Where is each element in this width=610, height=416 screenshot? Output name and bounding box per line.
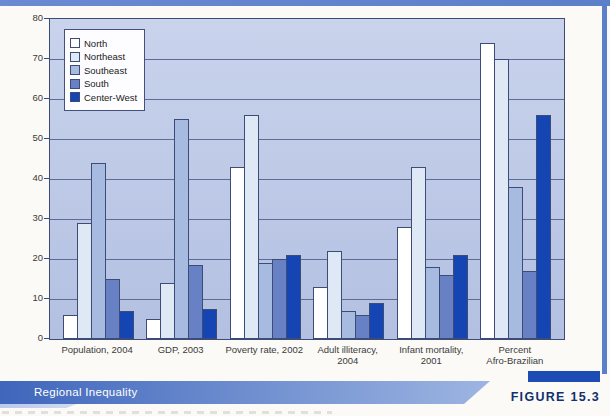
top-border-strip xyxy=(0,0,610,6)
x-axis-label-6: PercentAfro-Brazilian xyxy=(479,344,550,366)
y-tick-mark-50 xyxy=(44,138,49,139)
bar-southeast-1 xyxy=(91,163,106,339)
bar-southeast-3 xyxy=(258,263,273,339)
x-axis-label-3: Poverty rate, 2002 xyxy=(229,344,300,366)
y-tick-label-20: 20 xyxy=(13,253,43,263)
bar-group-1 xyxy=(63,163,134,339)
figure-number-label: FIGURE 15.3 xyxy=(511,390,600,404)
legend-swatch-center-west xyxy=(70,92,80,102)
x-axis-label-line: Poverty rate, 2002 xyxy=(225,344,303,355)
bar-center-west-4 xyxy=(369,303,384,339)
bar-group-3 xyxy=(230,115,301,339)
bar-northeast-5 xyxy=(411,167,426,339)
legend-label: South xyxy=(84,78,109,89)
chart-plot-area: NorthNortheastSoutheastSouthCenter-West xyxy=(49,18,565,340)
cropped-caption-remnant xyxy=(2,411,332,414)
bar-group-6 xyxy=(480,43,551,339)
bar-north-2 xyxy=(146,319,161,339)
bar-group-2 xyxy=(146,119,217,339)
y-tick-mark-80 xyxy=(44,18,49,19)
x-axis-label-line: 2004 xyxy=(337,355,358,366)
bar-south-6 xyxy=(522,271,537,339)
legend-item-south: South xyxy=(70,78,137,89)
right-border-strip xyxy=(602,4,607,374)
x-axis-label-2: GDP, 2003 xyxy=(145,344,216,366)
x-axis-label-1: Population, 2004 xyxy=(62,344,133,366)
x-axis-label-line: Afro-Brazilian xyxy=(486,355,543,366)
legend-label: North xyxy=(84,38,107,49)
legend-item-northeast: Northeast xyxy=(70,51,137,62)
y-tick-mark-30 xyxy=(44,218,49,219)
x-axis-label-5: Infant mortality,2001 xyxy=(396,344,467,366)
bar-center-west-1 xyxy=(119,311,134,339)
bar-north-4 xyxy=(313,287,328,339)
x-axis-label-4: Adult illiteracy,2004 xyxy=(312,344,383,366)
bar-south-3 xyxy=(272,259,287,339)
legend-swatch-north xyxy=(70,38,80,48)
x-axis-label-line: GDP, 2003 xyxy=(158,344,204,355)
figure-title-bar: Regional Inequality xyxy=(0,381,490,404)
bar-southeast-4 xyxy=(341,311,356,339)
x-axis-label-line: Percent xyxy=(499,344,532,355)
bar-south-5 xyxy=(439,275,454,339)
bar-northeast-2 xyxy=(160,283,175,339)
bar-south-2 xyxy=(188,265,203,339)
legend-swatch-south xyxy=(70,79,80,89)
legend-item-center-west: Center-West xyxy=(70,92,137,103)
legend-label: Northeast xyxy=(84,51,125,62)
y-tick-label-0: 0 xyxy=(13,333,43,343)
bar-center-west-6 xyxy=(536,115,551,339)
bar-north-3 xyxy=(230,167,245,339)
figure-number-ribbon xyxy=(528,371,600,382)
x-axis-label-line: 2001 xyxy=(421,355,442,366)
bar-north-5 xyxy=(397,227,412,339)
bar-south-1 xyxy=(105,279,120,339)
bar-northeast-3 xyxy=(244,115,259,339)
bar-northeast-1 xyxy=(77,223,92,339)
bar-center-west-3 xyxy=(286,255,301,339)
y-tick-label-70: 70 xyxy=(13,53,43,63)
bar-south-4 xyxy=(355,315,370,339)
bar-group-4 xyxy=(313,251,384,339)
bar-southeast-2 xyxy=(174,119,189,339)
y-tick-label-40: 40 xyxy=(13,173,43,183)
y-tick-mark-20 xyxy=(44,258,49,259)
x-axis-label-line: Population, 2004 xyxy=(61,344,132,355)
bar-north-6 xyxy=(480,43,495,339)
bar-northeast-6 xyxy=(494,59,509,339)
legend-swatch-southeast xyxy=(70,65,80,75)
legend-swatch-northeast xyxy=(70,52,80,62)
bar-northeast-4 xyxy=(327,251,342,339)
bar-southeast-6 xyxy=(508,187,523,339)
bar-center-west-5 xyxy=(453,255,468,339)
y-tick-mark-40 xyxy=(44,178,49,179)
bar-north-1 xyxy=(63,315,78,339)
legend-label: Southeast xyxy=(84,65,127,76)
bar-group-5 xyxy=(397,167,468,339)
legend-item-southeast: Southeast xyxy=(70,65,137,76)
x-axis-labels: Population, 2004GDP, 2003Poverty rate, 2… xyxy=(49,344,563,366)
y-tick-mark-10 xyxy=(44,298,49,299)
y-tick-label-50: 50 xyxy=(13,133,43,143)
y-tick-label-60: 60 xyxy=(13,93,43,103)
y-tick-label-80: 80 xyxy=(13,13,43,23)
y-tick-mark-0 xyxy=(44,338,49,339)
y-tick-label-30: 30 xyxy=(13,213,43,223)
legend-item-north: North xyxy=(70,38,137,49)
x-axis-label-line: Adult illiteracy, xyxy=(317,344,378,355)
y-tick-label-10: 10 xyxy=(13,293,43,303)
bar-southeast-5 xyxy=(425,267,440,339)
bar-center-west-2 xyxy=(202,309,217,339)
legend-label: Center-West xyxy=(84,92,137,103)
figure-title: Regional Inequality xyxy=(0,381,490,403)
chart-legend: NorthNortheastSoutheastSouthCenter-West xyxy=(64,29,145,111)
x-axis-label-line: Infant mortality, xyxy=(399,344,463,355)
y-tick-mark-70 xyxy=(44,58,49,59)
y-tick-mark-60 xyxy=(44,98,49,99)
